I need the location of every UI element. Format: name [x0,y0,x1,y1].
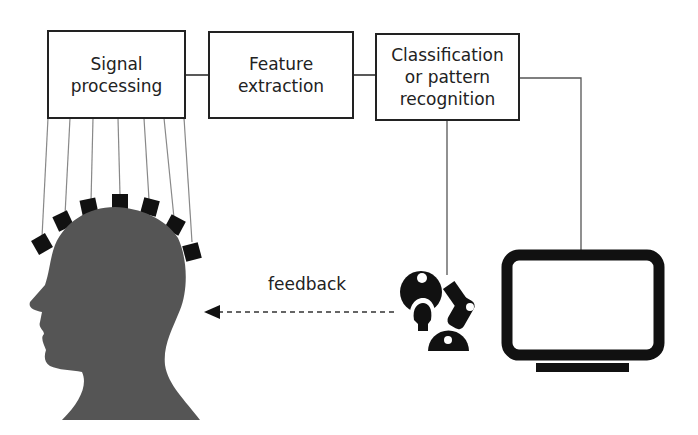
connector-classification-monitor [519,78,581,250]
head-silhouette-icon [30,207,200,420]
signal-processing-label: Signal processing [71,53,163,97]
classification-block: Classification or pattern recognition [375,33,520,121]
monitor-stand [536,363,629,372]
feedback-label: feedback [268,274,346,294]
feature-extraction-block: Feature extraction [208,31,354,119]
arrow-head-icon [204,305,220,319]
robotic-arm-icon [400,271,477,351]
classification-label: Classification or pattern recognition [391,44,503,110]
signal-processing-block: Signal processing [47,30,186,119]
monitor-icon [507,255,659,372]
feature-extraction-label: Feature extraction [238,53,324,97]
